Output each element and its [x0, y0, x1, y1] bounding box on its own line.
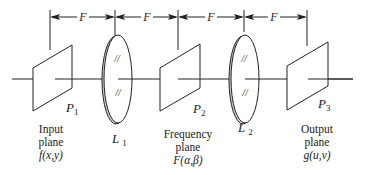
label-p2: P2 [192, 101, 205, 118]
svg-text:f(x,y): f(x,y) [39, 149, 63, 162]
lens-l1: // // [102, 35, 132, 124]
caption-frequency-plane: Frequency plane F(α,β) [164, 128, 213, 167]
caption-output-plane: Output plane g(u,v) [301, 123, 334, 162]
label-p3: P3 [317, 96, 331, 113]
svg-text:plane: plane [305, 136, 330, 149]
label-p1: P1 [65, 100, 78, 117]
dimension-label-f2: F [142, 10, 151, 24]
optical-system-diagram: F F F F // // // // P1 P2 P3 L1 L2 Input… [0, 0, 365, 175]
dimension-label-f3: F [206, 10, 215, 24]
caption-input-plane: Input plane f(x,y) [39, 123, 64, 162]
svg-text:g(u,v): g(u,v) [303, 149, 330, 162]
label-l2: L2 [237, 120, 253, 137]
dimension-label-f4: F [269, 10, 278, 24]
svg-text:Input: Input [39, 123, 64, 136]
svg-text:F(α,β): F(α,β) [172, 154, 202, 167]
dimension-label-f1: F [78, 10, 87, 24]
lens-l2: // // [229, 35, 259, 124]
svg-text:Frequency: Frequency [164, 128, 213, 141]
svg-text:Output: Output [301, 123, 334, 136]
svg-text:plane: plane [39, 136, 64, 149]
svg-text:plane: plane [176, 141, 201, 154]
label-l1: L1 [111, 131, 127, 148]
